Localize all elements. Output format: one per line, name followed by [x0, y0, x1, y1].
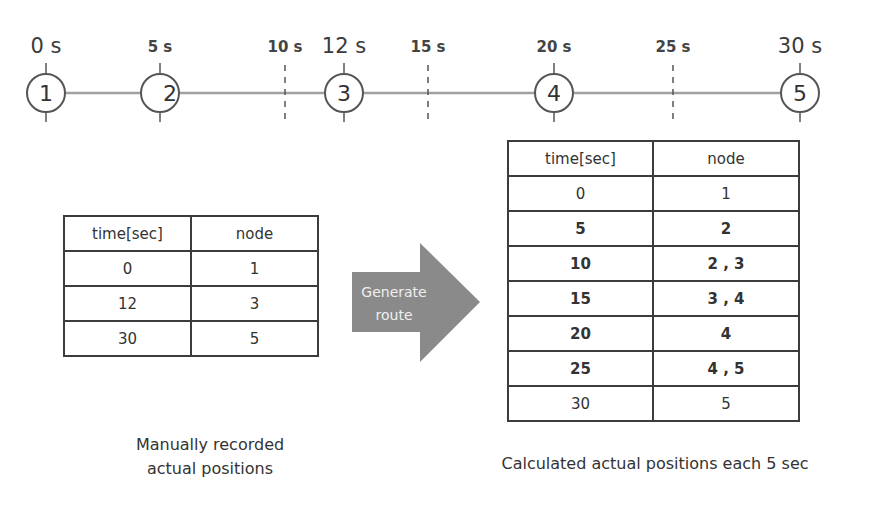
- time-cell: 12: [64, 286, 191, 321]
- column-header-node: node: [653, 141, 799, 176]
- column-header-time: time[sec]: [64, 216, 191, 251]
- table-row: 10 2 , 3: [508, 246, 799, 281]
- node-cell: 3 , 4: [653, 281, 799, 316]
- tick-15s: 15 s: [410, 38, 445, 122]
- table-row: 30 5: [508, 386, 799, 421]
- time-cell: 30: [508, 386, 653, 421]
- caption-line: actual positions: [60, 457, 360, 481]
- caption-line: Manually recorded: [60, 433, 360, 457]
- timeline: 10 s 15 s 25 s 1 0 s 2 5 s 3 12 s 4 20 s: [0, 0, 876, 140]
- node-5: 5 30 s: [778, 34, 822, 122]
- node-time-label: 20 s: [536, 38, 571, 56]
- time-cell: 0: [508, 176, 653, 211]
- column-header-time: time[sec]: [508, 141, 653, 176]
- manual-table-caption: Manually recorded actual positions: [60, 433, 360, 481]
- node-cell: 5: [653, 386, 799, 421]
- node-number: 3: [337, 81, 351, 106]
- table-row: 5 2: [508, 211, 799, 246]
- tick-25s: 25 s: [655, 38, 690, 122]
- time-cell: 30: [64, 321, 191, 356]
- node-1: 1 0 s: [27, 34, 65, 122]
- node-cell: 3: [191, 286, 318, 321]
- node-2: 2 5 s: [141, 38, 179, 122]
- tick-10s: 10 s: [267, 38, 302, 122]
- table-row: 15 3 , 4: [508, 281, 799, 316]
- node-number: 1: [39, 81, 53, 106]
- table-row: 30 5: [64, 321, 318, 356]
- node-time-label: 30 s: [778, 34, 822, 58]
- tick-label: 25 s: [655, 38, 690, 56]
- arrow-label-line2: route: [376, 307, 413, 323]
- node-cell: 5: [191, 321, 318, 356]
- node-number: 5: [793, 81, 807, 106]
- calculated-positions-table: time[sec] node 0 1 5 2 10 2 , 3 15 3 , 4…: [507, 140, 800, 422]
- node-cell: 1: [191, 251, 318, 286]
- time-cell: 5: [508, 211, 653, 246]
- tick-label: 15 s: [410, 38, 445, 56]
- generate-route-arrow: Generate route: [350, 240, 485, 365]
- time-cell: 15: [508, 281, 653, 316]
- table-header-row: time[sec] node: [64, 216, 318, 251]
- table-header-row: time[sec] node: [508, 141, 799, 176]
- table-row: 25 4 , 5: [508, 351, 799, 386]
- column-header-node: node: [191, 216, 318, 251]
- node-cell: 1: [653, 176, 799, 211]
- node-cell: 4 , 5: [653, 351, 799, 386]
- node-4: 4 20 s: [535, 38, 573, 122]
- time-cell: 0: [64, 251, 191, 286]
- node-3: 3 12 s: [322, 34, 366, 122]
- node-number: 2: [163, 81, 177, 106]
- node-cell: 2: [653, 211, 799, 246]
- node-number: 4: [547, 81, 561, 106]
- table-row: 20 4: [508, 316, 799, 351]
- time-cell: 10: [508, 246, 653, 281]
- node-time-label: 5 s: [148, 38, 173, 56]
- node-cell: 2 , 3: [653, 246, 799, 281]
- time-cell: 20: [508, 316, 653, 351]
- arrow-label-line1: Generate: [361, 284, 426, 300]
- node-time-label: 0 s: [31, 34, 62, 58]
- arrow-right-icon: [352, 243, 480, 362]
- tick-label: 10 s: [267, 38, 302, 56]
- calculated-table-caption: Calculated actual positions each 5 sec: [440, 452, 870, 476]
- table-row: 0 1: [508, 176, 799, 211]
- table-row: 0 1: [64, 251, 318, 286]
- node-cell: 4: [653, 316, 799, 351]
- manual-positions-table: time[sec] node 0 1 12 3 30 5: [63, 215, 319, 357]
- time-cell: 25: [508, 351, 653, 386]
- table-row: 12 3: [64, 286, 318, 321]
- node-time-label: 12 s: [322, 34, 366, 58]
